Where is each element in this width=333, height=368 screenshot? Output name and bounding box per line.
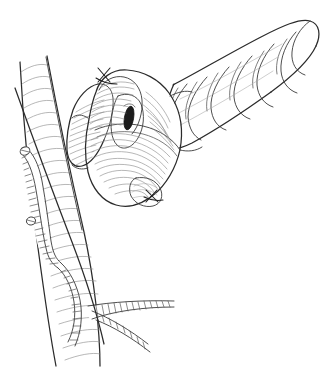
anatomy-line-drawing xyxy=(0,0,333,368)
illustration-canvas: Pancreatic stump with body and tail over… xyxy=(0,0,333,368)
